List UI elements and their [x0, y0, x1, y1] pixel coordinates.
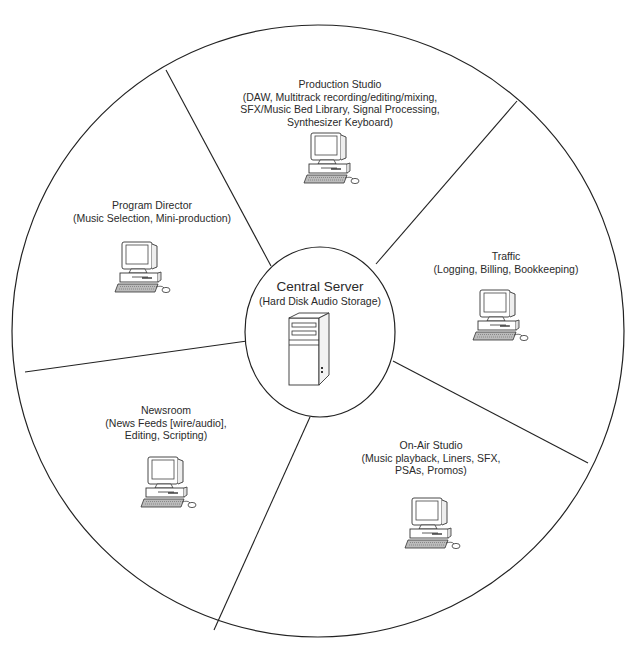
node-description: Editing, Scripting) [105, 429, 226, 442]
node-description: (DAW, Multitrack recording/editing/mixin… [240, 91, 439, 104]
spoke-line [214, 417, 310, 630]
node-program-director: Program Director (Music Selection, Mini-… [73, 199, 231, 224]
server-tower-icon [289, 313, 329, 385]
center-server-label: Central Server (Hard Disk Audio Storage) [259, 279, 381, 307]
node-description: (Music Selection, Mini-production) [73, 212, 231, 225]
node-description: (Music playback, Liners, SFX, [362, 452, 501, 465]
node-title: On-Air Studio [362, 439, 501, 452]
node-title: Program Director [73, 199, 231, 212]
node-description: (News Feeds [wire/audio], [105, 417, 226, 430]
node-description: (Logging, Billing, Bookkeeping) [434, 263, 579, 276]
node-description: SFX/Music Bed Library, Signal Processing… [240, 103, 439, 116]
node-on-air-studio: On-Air Studio (Music playback, Liners, S… [362, 439, 501, 477]
node-title: Newsroom [105, 404, 226, 417]
node-description: PSAs, Promos) [362, 464, 501, 477]
spoke-line [25, 341, 247, 372]
desktop-computer-icon [304, 133, 359, 184]
desktop-computer-icon [405, 498, 460, 549]
node-traffic: Traffic (Logging, Billing, Bookkeeping) [434, 250, 579, 275]
desktop-computer-icon [473, 290, 528, 341]
center-description: (Hard Disk Audio Storage) [259, 295, 381, 307]
node-title: Traffic [434, 250, 579, 263]
node-newsroom: Newsroom (News Feeds [wire/audio], Editi… [105, 404, 226, 442]
node-title: Production Studio [240, 78, 439, 91]
center-title: Central Server [259, 279, 381, 295]
node-production-studio: Production Studio (DAW, Multitrack recor… [240, 78, 439, 128]
desktop-computer-icon [141, 457, 196, 508]
desktop-computer-icon [115, 242, 170, 293]
node-description: Synthesizer Keyboard) [240, 116, 439, 129]
